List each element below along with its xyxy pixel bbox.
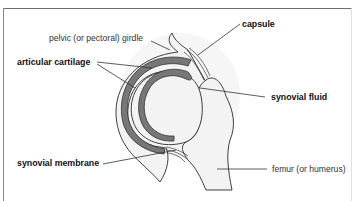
synovial-joint-diagram: pelvic (or pectoral) girdle capsule arti… [0,0,354,201]
label-femur: femur (or humerus) [272,164,346,174]
label-synovial-membrane: synovial membrane [17,158,99,168]
label-girdle: pelvic (or pectoral) girdle [49,33,143,43]
label-capsule: capsule [242,19,275,29]
label-articular-cartilage: articular cartilage [17,57,90,67]
label-synovial-fluid: synovial fluid [271,92,327,102]
